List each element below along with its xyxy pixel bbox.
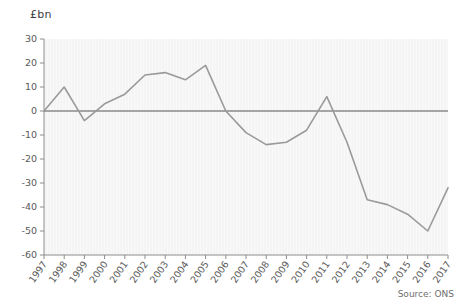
svg-text:10: 10	[25, 81, 37, 92]
svg-text:1997: 1997	[26, 259, 49, 285]
svg-text:-20: -20	[21, 153, 37, 164]
svg-text:2011: 2011	[309, 259, 332, 285]
y-axis-ticks: 3020100-10-20-30-40-50-60	[21, 33, 44, 260]
line-chart: 3020100-10-20-30-40-50-60 19971998199920…	[0, 0, 463, 304]
y-axis-unit-label: £bn	[30, 8, 52, 21]
svg-text:0: 0	[31, 105, 37, 116]
svg-text:2017: 2017	[430, 259, 453, 285]
svg-text:-30: -30	[21, 177, 37, 188]
svg-text:-60: -60	[21, 249, 37, 260]
svg-text:-50: -50	[21, 225, 37, 236]
source-attribution: Source: ONS	[398, 289, 454, 299]
svg-text:2002: 2002	[127, 259, 150, 285]
svg-text:2007: 2007	[228, 259, 251, 285]
svg-text:2012: 2012	[329, 259, 352, 285]
svg-text:1998: 1998	[46, 259, 69, 285]
x-axis-ticks: 1997199819992000200120022003200420052006…	[26, 255, 453, 285]
svg-text:2013: 2013	[349, 259, 372, 285]
chart-container: £bn 3020100-10-20-30-40-50-60 1997199819…	[0, 0, 463, 304]
svg-text:2004: 2004	[168, 259, 191, 285]
svg-text:1999: 1999	[67, 259, 90, 285]
svg-text:20: 20	[25, 57, 37, 68]
svg-text:2014: 2014	[370, 259, 393, 285]
svg-text:2015: 2015	[390, 259, 413, 285]
plot-background	[44, 39, 448, 255]
svg-text:2001: 2001	[107, 259, 130, 285]
svg-text:2008: 2008	[248, 259, 271, 285]
svg-text:-40: -40	[21, 201, 37, 212]
svg-text:2009: 2009	[269, 259, 292, 285]
svg-text:2000: 2000	[87, 259, 110, 285]
svg-text:30: 30	[25, 33, 37, 44]
svg-text:2006: 2006	[208, 259, 231, 285]
svg-text:2003: 2003	[147, 259, 170, 285]
svg-text:2005: 2005	[188, 259, 211, 285]
svg-text:2016: 2016	[410, 259, 433, 285]
svg-text:2010: 2010	[289, 259, 312, 285]
svg-text:-10: -10	[21, 129, 37, 140]
